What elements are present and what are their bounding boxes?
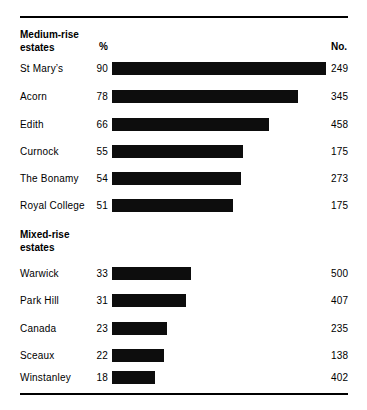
row-percent-value: 54 <box>68 173 108 185</box>
bar <box>112 199 233 212</box>
section-header-mixed-rise: Mixed-rise estates <box>20 228 69 254</box>
bar <box>112 322 167 335</box>
row-percent-value: 31 <box>68 295 108 307</box>
row-count-value: 500 <box>331 268 348 280</box>
row-count-value: 345 <box>331 91 348 103</box>
row-percent-value: 78 <box>68 91 108 103</box>
column-header-percent: % <box>68 41 108 53</box>
bar <box>112 118 269 131</box>
bar <box>112 90 298 103</box>
section-header-line1: Medium-rise <box>20 28 79 41</box>
top-rule <box>20 16 348 18</box>
row-count-value: 402 <box>331 372 348 384</box>
row-percent-value: 23 <box>68 323 108 335</box>
row-count-value: 175 <box>331 200 348 212</box>
row-label: Winstanley <box>20 372 71 384</box>
bar <box>112 371 155 384</box>
row-count-value: 235 <box>331 323 348 335</box>
row-label: Park Hill <box>20 295 59 307</box>
row-count-value: 175 <box>331 146 348 158</box>
bar <box>112 172 241 185</box>
row-percent-value: 33 <box>68 268 108 280</box>
row-label: Edith <box>20 119 44 131</box>
bottom-rule <box>20 393 348 395</box>
row-percent-value: 22 <box>68 350 108 362</box>
row-label: Curnock <box>20 146 59 158</box>
row-count-value: 458 <box>331 119 348 131</box>
row-label: Canada <box>20 323 56 335</box>
bar <box>112 267 191 280</box>
row-count-value: 407 <box>331 295 348 307</box>
section-header-line2: estates <box>20 241 69 254</box>
row-percent-value: 90 <box>68 63 108 75</box>
section-header-line1: Mixed-rise <box>20 228 69 241</box>
row-label: Warwick <box>20 268 59 280</box>
row-percent-value: 51 <box>68 200 108 212</box>
column-header-number: No. <box>331 41 347 53</box>
row-percent-value: 66 <box>68 119 108 131</box>
row-percent-value: 55 <box>68 146 108 158</box>
row-count-value: 138 <box>331 350 348 362</box>
bar <box>112 349 164 362</box>
bar <box>112 62 326 75</box>
row-percent-value: 18 <box>68 372 108 384</box>
row-count-value: 249 <box>331 63 348 75</box>
row-label: Acorn <box>20 91 47 103</box>
row-label: Sceaux <box>20 350 55 362</box>
row-label: St Mary’s <box>20 63 63 75</box>
bar <box>112 145 243 158</box>
bar-chart-figure: Medium-rise estates % No. Mixed-rise est… <box>0 0 367 410</box>
bar <box>112 294 186 307</box>
row-count-value: 273 <box>331 173 348 185</box>
